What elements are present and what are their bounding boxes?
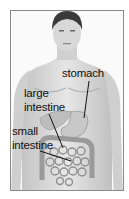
large-intestine-label-line2: intestine	[24, 101, 65, 113]
small-intestine-label-line2: intestine	[12, 139, 53, 151]
small-intestine-label-line1: small	[12, 125, 38, 137]
stomach-label: stomach	[62, 67, 104, 79]
anatomy-illustration	[0, 0, 129, 199]
large-intestine-label-line1: large	[24, 87, 49, 99]
